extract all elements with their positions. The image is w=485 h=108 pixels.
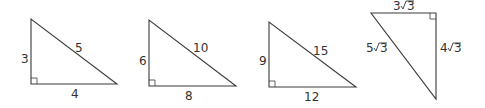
triangle-4-hypotenuse: 5 3 — [366, 41, 388, 55]
triangle-1-leg-vertical: 3 — [21, 52, 29, 66]
right-angle-marker — [149, 80, 155, 86]
triangle-3-leg-vertical: 9 — [259, 54, 267, 68]
triangle-1-leg-horizontal: 4 — [71, 87, 79, 101]
svg-text:4: 4 — [440, 41, 448, 55]
svg-text:3: 3 — [380, 41, 388, 55]
svg-text:3: 3 — [454, 41, 462, 55]
svg-text:3: 3 — [393, 0, 401, 13]
similar-triangles-diagram: 3 4 5 6 8 10 9 12 15 3 3 5 3 — [0, 0, 485, 108]
triangle-2: 6 8 10 — [139, 20, 236, 103]
triangle-4-leg-vertical: 4 3 — [440, 41, 462, 55]
right-angle-marker — [31, 78, 37, 84]
triangle-2-leg-horizontal: 8 — [185, 89, 193, 103]
triangle-2-hypotenuse: 10 — [193, 41, 208, 55]
triangle-1: 3 4 5 — [21, 19, 117, 101]
right-angle-marker — [269, 81, 275, 87]
triangle-1-hypotenuse: 5 — [75, 41, 83, 55]
triangle-4-leg-horizontal: 3 3 — [393, 0, 415, 13]
right-angle-marker — [430, 13, 436, 19]
svg-text:3: 3 — [407, 0, 415, 13]
svg-text:5: 5 — [366, 41, 374, 55]
triangle-4: 3 3 5 3 4 3 — [366, 0, 462, 99]
triangle-3-hypotenuse: 15 — [313, 44, 328, 58]
triangle-2-leg-vertical: 6 — [139, 54, 147, 68]
triangle-3-leg-horizontal: 12 — [304, 90, 319, 104]
triangle-3: 9 12 15 — [259, 22, 356, 104]
